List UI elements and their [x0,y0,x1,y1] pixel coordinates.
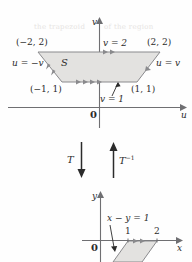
edge-label-v-equals-1: v = 1 [100,95,124,104]
vertex-label-top-left: (−2, 2) [16,38,48,47]
axis-label-y: y [92,192,97,201]
x-axis-tick-label-1: 1 [125,227,131,236]
region-image-parallelogram [113,241,157,262]
axis-label-v: v [92,18,97,27]
vertex-label-bottom-right: (1, 1) [131,85,155,94]
axis-label-x: x [177,244,182,253]
x-axis-tick-label-2: 2 [154,227,160,236]
transform-arrow-forward [78,142,86,178]
transform-inverse-exponent: −1 [126,154,135,161]
figure-container: the trapezoid of the region [0,0,192,262]
edge-label-v-equals-2: v = 2 [103,39,127,48]
callout-x-minus-y [110,225,117,252]
region-label-s: S [61,58,68,68]
origin-label-uv: 0 [90,110,97,120]
edge-label-u-equals-v: u = v [156,59,180,68]
region-s [38,52,160,82]
vertex-label-bottom-left: (−1, 1) [30,85,62,94]
transform-label-inverse: T−1 [119,155,135,166]
transform-inverse-base: T [119,155,126,166]
origin-label-xy: 0 [91,243,98,253]
transform-arrow-inverse [110,142,118,178]
vertex-label-top-right: (2, 2) [147,38,171,47]
transform-label-forward: T [67,155,74,165]
edge-label-u-equals-minus-v: u = −v [12,59,44,68]
line-label-x-minus-y: x − y = 1 [107,214,149,223]
axis-label-u: u [181,111,187,120]
